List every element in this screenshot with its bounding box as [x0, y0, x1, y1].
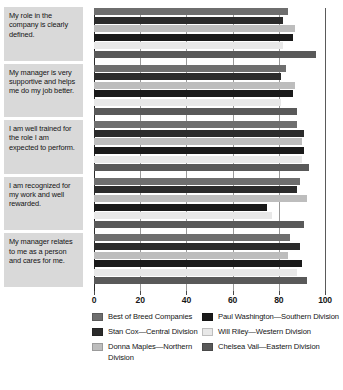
- category-label: I am recognized for my work and well rew…: [4, 177, 83, 231]
- legend-item[interactable]: Stan Cox—Central Division: [92, 327, 207, 339]
- bar: [94, 121, 297, 128]
- legend-column-left: Best of Breed CompaniesStan Cox—Central …: [92, 312, 207, 366]
- legend-column-right: Paul Washington—Southern DivisionWill Ri…: [202, 312, 342, 357]
- bar: [94, 260, 302, 267]
- bar: [94, 234, 290, 241]
- bar: [94, 51, 316, 58]
- bar: [94, 204, 267, 211]
- chart-legend: Best of Breed CompaniesStan Cox—Central …: [0, 312, 343, 390]
- category-label: My manager is very supportive and helps …: [4, 64, 83, 118]
- bar: [94, 8, 288, 15]
- legend-swatch-icon: [92, 343, 103, 351]
- bar: [94, 269, 297, 276]
- bar: [94, 34, 293, 41]
- bar: [94, 178, 300, 185]
- bar: [94, 277, 307, 284]
- legend-item[interactable]: Will Riley—Western Division: [202, 327, 342, 339]
- legend-item[interactable]: Paul Washington—Southern Division: [202, 312, 342, 324]
- bar-chart: My role in the company is clearly define…: [0, 0, 343, 390]
- legend-label: Paul Washington—Southern Division: [218, 312, 342, 323]
- category-label: My role in the company is clearly define…: [4, 7, 83, 61]
- legend-label: Best of Breed Companies: [108, 312, 207, 323]
- category-label: I am well trained for the role I am expe…: [4, 120, 83, 174]
- legend-item[interactable]: Best of Breed Companies: [92, 312, 207, 324]
- bars-container: [94, 8, 325, 291]
- bar: [94, 130, 304, 137]
- bar: [94, 147, 304, 154]
- bar: [94, 156, 302, 163]
- bar-group: [94, 8, 325, 60]
- legend-swatch-icon: [202, 313, 213, 321]
- bar: [94, 17, 283, 24]
- category-label: My manager relates to me as a person and…: [4, 233, 83, 287]
- tick-label-40: 40: [182, 295, 191, 305]
- bar: [94, 99, 281, 106]
- bar: [94, 73, 281, 80]
- bar: [94, 108, 297, 115]
- bar: [94, 195, 307, 202]
- bar: [94, 90, 293, 97]
- legend-swatch-icon: [202, 343, 213, 351]
- legend-item[interactable]: Donna Maples—Northern Division: [92, 342, 207, 363]
- bar-group: [94, 121, 325, 173]
- bar: [94, 221, 304, 228]
- legend-label: Will Riley—Western Division: [218, 327, 342, 338]
- bar: [94, 138, 302, 145]
- tick-label-100: 100: [318, 295, 332, 305]
- legend-item[interactable]: Chelsea Vail—Eastern Division: [202, 342, 342, 354]
- tick-label-80: 80: [274, 295, 283, 305]
- legend-swatch-icon: [202, 328, 213, 336]
- bar: [94, 164, 309, 171]
- x-axis-ticks: 020406080100: [0, 291, 343, 307]
- axis-right-line: [325, 8, 326, 291]
- plot-area: My role in the company is clearly define…: [0, 0, 343, 300]
- tick-label-0: 0: [92, 295, 97, 305]
- legend-swatch-icon: [92, 313, 103, 321]
- bar: [94, 42, 283, 49]
- bar: [94, 252, 288, 259]
- bar: [94, 65, 286, 72]
- legend-label: Donna Maples—Northern Division: [108, 342, 207, 363]
- tick-label-60: 60: [228, 295, 237, 305]
- legend-swatch-icon: [92, 328, 103, 336]
- tick-label-20: 20: [136, 295, 145, 305]
- bar: [94, 25, 295, 32]
- legend-label: Stan Cox—Central Division: [108, 327, 207, 338]
- bar: [94, 212, 272, 219]
- bar-group: [94, 178, 325, 230]
- bar: [94, 243, 300, 250]
- bar-group: [94, 65, 325, 117]
- legend-label: Chelsea Vail—Eastern Division: [218, 342, 342, 353]
- bar: [94, 186, 297, 193]
- bar: [94, 82, 295, 89]
- bar-group: [94, 234, 325, 286]
